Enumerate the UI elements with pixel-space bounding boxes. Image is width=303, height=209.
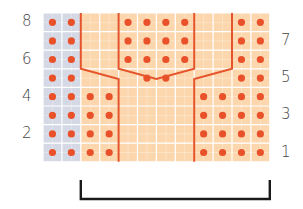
purl-dot (143, 56, 150, 63)
purl-dot (49, 130, 56, 137)
purl-dot (238, 130, 245, 137)
chart-grid (0, 0, 303, 209)
purl-dot (257, 149, 264, 156)
purl-dot (238, 112, 245, 119)
purl-dot (68, 93, 75, 100)
purl-dot (257, 37, 264, 44)
purl-dot (49, 19, 56, 26)
purl-dot (49, 56, 56, 63)
row-number-label: 7 (281, 33, 291, 48)
purl-dot (162, 19, 169, 26)
purl-dot (257, 130, 264, 137)
row-number-label: 1 (281, 145, 291, 160)
purl-dot (68, 19, 75, 26)
purl-dot (68, 149, 75, 156)
purl-dot (124, 19, 131, 26)
purl-dot (49, 75, 56, 82)
purl-dot (87, 130, 94, 137)
purl-dot (219, 130, 226, 137)
purl-dot (200, 149, 207, 156)
purl-dot (257, 75, 264, 82)
purl-dot (257, 19, 264, 26)
purl-dot (106, 112, 113, 119)
row-number-label: 3 (281, 107, 291, 122)
row-number-label: 2 (22, 126, 32, 141)
purl-dot (181, 37, 188, 44)
purl-dot (257, 56, 264, 63)
row-number-label: 6 (22, 52, 32, 67)
purl-dot (200, 93, 207, 100)
row-number-label: 8 (22, 14, 32, 29)
purl-dot (238, 93, 245, 100)
purl-dot (68, 37, 75, 44)
purl-dot (124, 56, 131, 63)
purl-dot (219, 149, 226, 156)
purl-dot (49, 112, 56, 119)
purl-dot (68, 112, 75, 119)
purl-dot (143, 37, 150, 44)
purl-dot (87, 149, 94, 156)
purl-dot (257, 93, 264, 100)
purl-dot (162, 56, 169, 63)
purl-dot (219, 93, 226, 100)
purl-dot (68, 75, 75, 82)
purl-dot (143, 19, 150, 26)
purl-dot (181, 19, 188, 26)
purl-dot (162, 37, 169, 44)
purl-dot (49, 37, 56, 44)
repeat-bracket (81, 180, 270, 199)
row-number-label: 4 (22, 89, 32, 104)
purl-dot (106, 130, 113, 137)
purl-dot (87, 93, 94, 100)
knitting-chart: 8642 7531 (0, 0, 303, 209)
purl-dot (238, 37, 245, 44)
purl-dot (238, 19, 245, 26)
purl-dot (87, 112, 94, 119)
purl-dot (68, 130, 75, 137)
purl-dot (257, 112, 264, 119)
purl-dot (238, 56, 245, 63)
purl-dot (106, 149, 113, 156)
purl-dot (238, 75, 245, 82)
purl-dot (68, 56, 75, 63)
purl-dot (200, 112, 207, 119)
purl-dot (181, 56, 188, 63)
purl-dot (49, 93, 56, 100)
row-number-label: 5 (281, 70, 291, 85)
purl-dot (219, 112, 226, 119)
purl-dot (200, 130, 207, 137)
purl-dot (238, 149, 245, 156)
purl-dot (49, 149, 56, 156)
purl-dot (124, 37, 131, 44)
purl-dot (106, 93, 113, 100)
